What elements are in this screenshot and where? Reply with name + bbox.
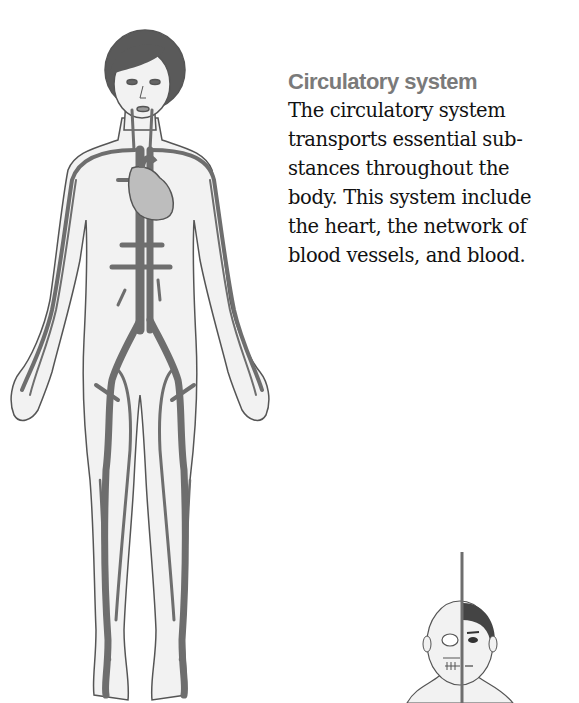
body-text-line: the heart, the network of [288,212,579,241]
circulatory-body-illustration [0,0,290,703]
section-heading: Circulatory system [288,70,579,94]
circulatory-system-section: Circulatory system The circulatory syste… [288,70,579,270]
half-skull-head-illustration [405,548,515,703]
body-text-line: body. This system include [288,183,579,212]
body-text-line: blood vessels, and blood. [288,241,579,270]
body-text-line: stances throughout the [288,154,579,183]
body-text-line: The circulatory system [288,96,579,125]
body-text-line: transports essential sub- [288,125,579,154]
head [105,30,185,118]
